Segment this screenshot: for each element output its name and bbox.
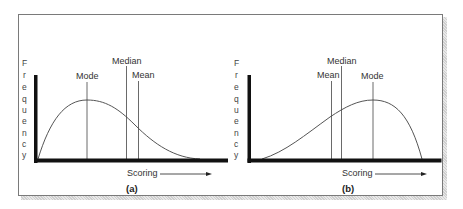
x-axis <box>248 159 442 163</box>
x-axis-label: Scoring <box>127 168 158 178</box>
panel-a: F r e q u e n c y Mode Median Mean Scori… <box>22 56 228 194</box>
y-letter: y <box>22 150 27 160</box>
y-letter: n <box>234 128 239 138</box>
y-letter: F <box>22 58 27 68</box>
y-letter: c <box>234 139 239 149</box>
mean-label: Mean <box>317 70 340 80</box>
distribution-curve <box>38 100 200 159</box>
y-letter: F <box>234 58 239 68</box>
x-arrow-head-icon <box>421 172 427 176</box>
mean-label: Mean <box>132 70 155 80</box>
y-letter: y <box>234 150 239 160</box>
y-axis-label: F r e q u e n c y <box>234 58 239 160</box>
y-letter: r <box>235 70 238 80</box>
y-letter: q <box>22 94 27 104</box>
x-axis-label: Scoring <box>342 168 373 178</box>
mode-label: Mode <box>361 71 384 81</box>
y-axis <box>248 75 252 163</box>
y-letter: q <box>234 94 239 104</box>
y-letter: e <box>234 82 239 92</box>
median-label: Median <box>327 56 357 66</box>
skew-diagram: F r e q u e n c y Mode Median Mean Scori… <box>0 0 463 209</box>
median-label: Median <box>112 56 142 66</box>
y-letter: u <box>22 105 27 115</box>
y-letter: e <box>22 82 27 92</box>
y-letter: n <box>22 128 27 138</box>
x-axis <box>34 159 228 163</box>
y-letter: u <box>234 105 239 115</box>
y-letter: e <box>234 116 239 126</box>
mode-label: Mode <box>76 71 99 81</box>
y-letter: c <box>22 139 27 149</box>
y-letter: e <box>22 116 27 126</box>
y-axis-label: F r e q u e n c y <box>22 58 27 160</box>
y-axis <box>34 75 38 163</box>
x-arrow-head-icon <box>206 172 212 176</box>
y-letter: r <box>23 70 26 80</box>
panel-caption: (a) <box>126 183 138 194</box>
panel-b: F r e q u e n c y Mean Median Mode Scori… <box>234 56 442 194</box>
panel-caption: (b) <box>342 183 354 194</box>
distribution-curve <box>262 100 422 159</box>
